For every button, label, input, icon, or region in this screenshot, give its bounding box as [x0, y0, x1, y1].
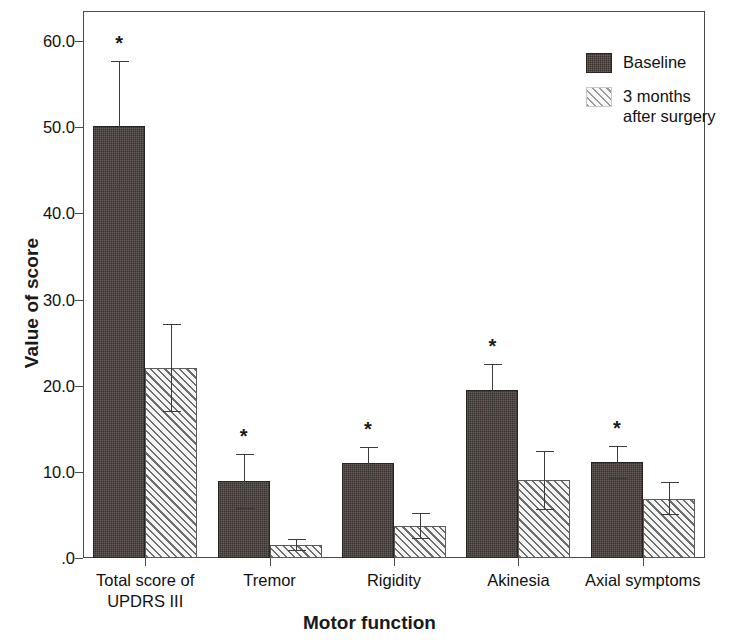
error-bar-cap-bottom: [484, 415, 502, 416]
legend: Baseline 3 months after surgery: [586, 52, 716, 139]
error-bar: [669, 482, 670, 515]
y-axis-tick-mark: [75, 41, 83, 42]
legend-swatch-followup-icon: [586, 87, 612, 107]
error-bar-cap-bottom: [163, 411, 181, 412]
y-axis-tick-mark: [75, 127, 83, 128]
y-axis-tick-label: 60.0: [15, 32, 75, 51]
error-bar: [171, 324, 172, 412]
error-bar-cap-top: [360, 447, 378, 448]
y-axis-tick-mark: [75, 300, 83, 301]
error-bar: [119, 61, 120, 190]
legend-label-followup: 3 months after surgery: [623, 86, 716, 126]
legend-item-followup: 3 months after surgery: [586, 86, 716, 126]
error-bar-cap-top: [484, 364, 502, 365]
x-axis-tick-mark: [518, 558, 519, 566]
legend-label-baseline: Baseline: [623, 52, 686, 72]
y-axis-tick-label: 50.0: [15, 118, 75, 137]
error-bar-cap-bottom: [536, 509, 554, 510]
error-bar: [296, 539, 297, 551]
error-bar-cap-bottom: [609, 478, 627, 479]
error-bar: [544, 451, 545, 510]
x-axis-tick-mark: [145, 558, 146, 566]
significance-asterisk: *: [115, 33, 123, 53]
y-axis-tick-mark: [75, 386, 83, 387]
y-axis-tick-mark: [75, 558, 83, 559]
significance-asterisk: *: [613, 418, 621, 438]
error-bar-cap-bottom: [661, 514, 679, 515]
error-bar-cap-top: [536, 451, 554, 452]
x-axis-title: Motor function: [0, 612, 739, 634]
error-bar-cap-bottom: [236, 508, 254, 509]
bar-chart: Value of score .010.020.030.040.050.060.…: [0, 0, 739, 642]
y-axis-tick-label: 20.0: [15, 376, 75, 395]
bar-baseline: [93, 126, 145, 558]
legend-item-baseline: Baseline: [586, 52, 716, 73]
y-axis-tick-label: 30.0: [15, 290, 75, 309]
error-bar-cap-top: [412, 513, 430, 514]
y-axis-tick-label: 10.0: [15, 462, 75, 481]
x-axis-tick-mark: [643, 558, 644, 566]
error-bar: [617, 446, 618, 479]
error-bar-cap-top: [288, 539, 306, 540]
x-axis-tick-mark: [270, 558, 271, 566]
error-bar: [492, 364, 493, 416]
error-bar: [368, 447, 369, 480]
significance-asterisk: *: [364, 419, 372, 439]
y-axis-tick-mark: [75, 213, 83, 214]
error-bar-cap-bottom: [288, 550, 306, 551]
error-bar: [244, 454, 245, 509]
significance-asterisk: *: [240, 426, 248, 446]
x-axis-tick-mark: [394, 558, 395, 566]
y-axis-tick-label: .0: [15, 549, 75, 568]
error-bar-cap-top: [163, 324, 181, 325]
error-bar-cap-bottom: [111, 189, 129, 190]
error-bar-cap-bottom: [412, 538, 430, 539]
error-bar-cap-top: [661, 482, 679, 483]
error-bar: [420, 513, 421, 539]
y-axis-tick-mark: [75, 472, 83, 473]
error-bar-cap-top: [111, 61, 129, 62]
error-bar-cap-top: [236, 454, 254, 455]
x-axis-tick-label: Axial symptoms: [569, 570, 717, 591]
error-bar-cap-bottom: [360, 479, 378, 480]
legend-swatch-baseline-icon: [586, 53, 612, 73]
y-axis-tick-label: 40.0: [15, 204, 75, 223]
error-bar-cap-top: [609, 446, 627, 447]
significance-asterisk: *: [488, 336, 496, 356]
